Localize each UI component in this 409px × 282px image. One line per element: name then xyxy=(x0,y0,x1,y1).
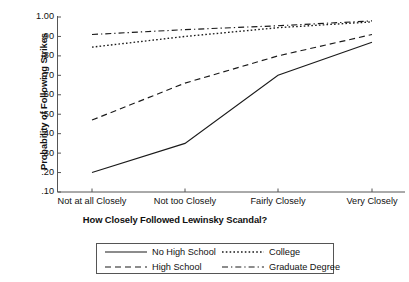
plot-area xyxy=(0,0,409,282)
legend-swatch-dashed xyxy=(104,262,148,272)
legend-entry-college: College xyxy=(221,244,300,259)
x-tick-label: Not at all Closely xyxy=(58,196,127,207)
legend-label: College xyxy=(269,247,300,257)
legend-entry-graduate-degree: Graduate Degree xyxy=(221,259,340,274)
legend-swatch-dotted xyxy=(221,247,265,257)
x-tick-label: Not too Closely xyxy=(154,196,216,207)
series-line-high-school xyxy=(92,35,372,121)
chart-legend: No High School College High School Gr xyxy=(96,243,334,274)
legend-entry-high-school: High School xyxy=(104,259,202,274)
x-tick-label: Fairly Closely xyxy=(250,196,305,207)
legend-swatch-solid xyxy=(104,247,148,257)
axis-lines xyxy=(58,16,406,192)
x-axis-tick-labels: Not at all CloselyNot too CloselyFairly … xyxy=(0,196,409,210)
x-tick-label: Very Closely xyxy=(346,196,397,207)
legend-entry-no-high-school: No High School xyxy=(104,244,216,259)
legend-label: High School xyxy=(152,262,202,272)
series-line-college xyxy=(92,22,372,47)
series-line-no-high-school xyxy=(92,42,372,172)
data-series-group xyxy=(92,21,372,173)
legend-swatch-dashdot xyxy=(221,262,265,272)
legend-label: Graduate Degree xyxy=(269,262,340,272)
legend-label: No High School xyxy=(152,247,216,257)
legend-row: High School Graduate Degree xyxy=(97,259,333,274)
axis-tick-marks xyxy=(58,17,373,192)
chart-figure: Probability of Following Strikes 1.00.90… xyxy=(0,0,409,282)
x-axis-title: How Closely Followed Lewinsky Scandal? xyxy=(0,214,350,225)
legend-row: No High School College xyxy=(97,244,333,259)
